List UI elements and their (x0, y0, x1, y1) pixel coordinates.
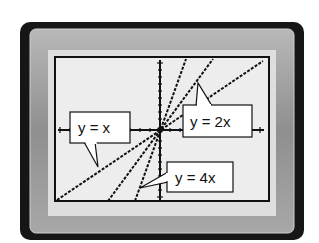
label-y-equals-4x: y = 4x (175, 169, 216, 186)
label-y-equals-2x: y = 2x (190, 113, 231, 130)
calculator-display: y = x y = 2x y = 4x (0, 0, 319, 243)
label-y-equals-x: y = x (78, 119, 111, 136)
